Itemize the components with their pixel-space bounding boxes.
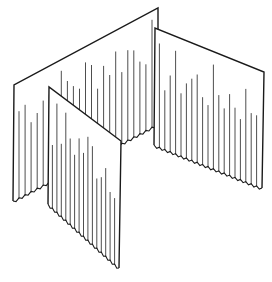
curtain-panel-back-right [154,28,264,189]
curtain-diagram: Curtain room-divider panels (line drawin… [0,0,272,282]
curtain-illustration [0,0,272,282]
